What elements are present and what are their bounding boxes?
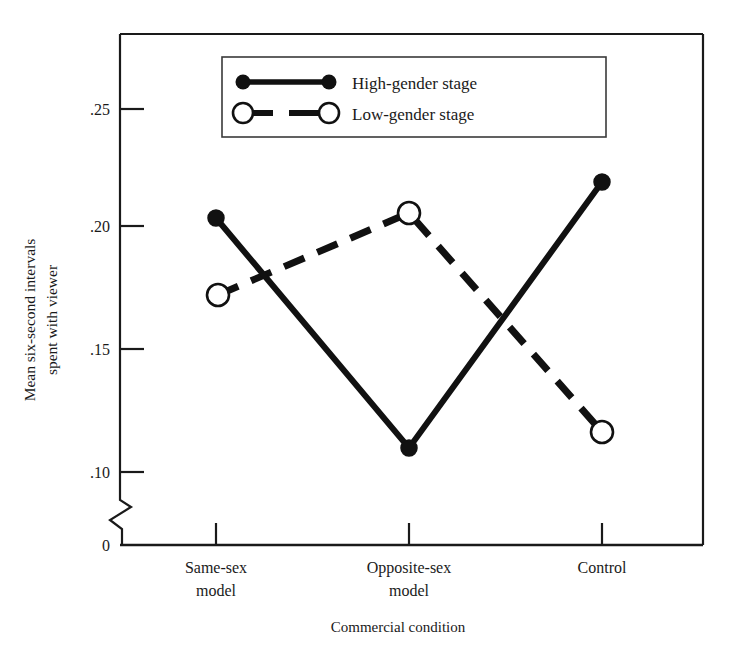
x-label-opposite-sex-line2: model xyxy=(389,582,430,599)
data-point-low-gender-control xyxy=(591,421,613,443)
y-tick-label-0: 0 xyxy=(102,537,110,554)
y-axis-title-line1: Mean six-second intervals xyxy=(21,239,38,402)
legend-open-circle-left-icon xyxy=(233,103,253,123)
data-point-high-gender-opposite-sex xyxy=(401,440,417,456)
legend-open-circle-right-icon xyxy=(319,103,339,123)
data-point-low-gender-opposite-sex xyxy=(398,202,420,224)
legend-filled-circle-right-icon xyxy=(322,75,337,90)
y-axis-break-zigzag xyxy=(110,492,131,545)
y-tick-label-015: .15 xyxy=(90,341,110,358)
x-label-control: Control xyxy=(578,559,627,576)
y-tick-label-010: .10 xyxy=(90,464,110,481)
legend-label-high-gender-stage: High-gender stage xyxy=(352,74,477,93)
x-axis-title: Commercial condition xyxy=(331,619,466,635)
legend-box xyxy=(222,57,606,137)
y-axis-title-line2: spent with viewer xyxy=(43,264,60,375)
chart-legend: High-gender stage Low-gender stage xyxy=(222,57,606,137)
data-point-high-gender-control xyxy=(594,174,610,190)
x-axis-ticks xyxy=(216,523,602,545)
x-label-opposite-sex-line1: Opposite-sex xyxy=(367,559,451,577)
line-chart-svg: .25 .20 .15 .10 0 Same-sex model Opposit… xyxy=(0,0,730,646)
chart-figure: .25 .20 .15 .10 0 Same-sex model Opposit… xyxy=(0,0,730,646)
series-low-gender-line xyxy=(218,213,602,432)
y-tick-label-025: .25 xyxy=(90,101,110,118)
y-axis-ticks xyxy=(120,109,144,472)
x-label-same-sex-line2: model xyxy=(196,582,237,599)
series-low-gender-stage xyxy=(207,202,613,443)
legend-label-low-gender-stage: Low-gender stage xyxy=(352,105,474,124)
data-point-high-gender-same-sex xyxy=(208,210,224,226)
legend-filled-circle-left-icon xyxy=(236,75,251,90)
y-tick-label-020: .20 xyxy=(90,218,110,235)
data-point-low-gender-same-sex xyxy=(207,284,229,306)
x-label-same-sex-line1: Same-sex xyxy=(185,559,247,576)
